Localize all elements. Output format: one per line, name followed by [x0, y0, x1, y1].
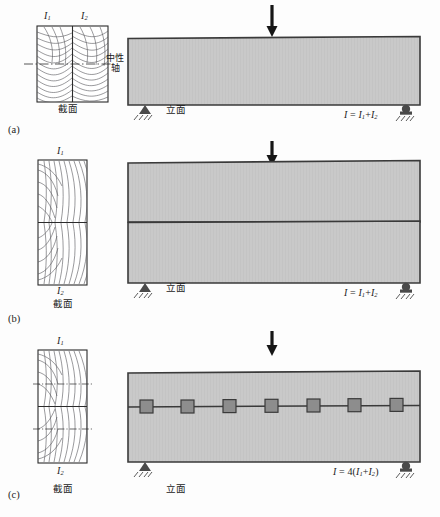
- connector-square: [390, 398, 403, 411]
- panel-c-elevation-beam: [128, 371, 420, 462]
- panel-a-section-caption: 截面: [58, 104, 78, 114]
- panel-c-label: (c): [8, 489, 20, 500]
- panel-a-roller-support: [396, 105, 414, 121]
- panel-b-formula: I = I1+I2: [344, 288, 378, 299]
- panel-c-pin-support: [134, 462, 152, 477]
- panel-c-roller-support: [396, 462, 414, 478]
- panel-b-inertia-label-top: I1: [57, 146, 64, 157]
- panel-c-load-arrow: [267, 331, 278, 356]
- connector-square: [181, 400, 194, 413]
- panel-a-inertia-label-2: I2: [81, 11, 88, 22]
- panel-b-elevation-beam: [128, 161, 420, 284]
- panel-b-section-caption: 截面: [53, 299, 73, 309]
- connector-square: [307, 399, 320, 412]
- connector-square: [140, 400, 153, 413]
- panel-a-formula: I = I1+I2: [344, 110, 378, 121]
- connector-square: [348, 399, 361, 412]
- panel-c-inertia-label-top: I1: [57, 336, 64, 347]
- panel-a-neutral-axis-label: 中性 轴: [106, 53, 124, 74]
- connector-square: [265, 399, 278, 412]
- panel-c-elevation-caption: 立面: [166, 484, 186, 494]
- panel-a-load-arrow: [267, 5, 278, 37]
- panel-c-section-caption: 截面: [53, 484, 73, 494]
- panel-a-cross-section: [24, 26, 112, 103]
- panel-c: [33, 331, 420, 478]
- panel-c-inertia-label-bottom: I2: [57, 466, 64, 477]
- panel-c-formula: I = 4(I1+I2): [333, 467, 379, 478]
- panel-c-cross-section: [33, 350, 92, 463]
- panel-a-elevation-beam: [128, 37, 420, 106]
- panel-b-pin-support: [134, 283, 152, 298]
- panel-a-elevation-caption: 立面: [166, 105, 186, 115]
- panel-b-elevation-caption: 立面: [166, 283, 186, 293]
- panel-a-label: (a): [8, 124, 20, 135]
- panel-a: [24, 5, 420, 121]
- panel-b-label: (b): [8, 313, 20, 324]
- panel-b-inertia-label-bottom: I2: [57, 286, 64, 297]
- connector-square: [223, 400, 236, 413]
- panel-b-roller-support: [396, 283, 414, 299]
- panel-a-inertia-label-1: I1: [44, 11, 51, 22]
- composite-beam-diagram: [0, 0, 440, 517]
- panel-b: [38, 141, 420, 299]
- figure-page: I1 I2 中性 轴 截面 立面 I = I1+I2 (a) I1 I2 截面 …: [0, 0, 440, 517]
- panel-a-pin-support: [134, 105, 152, 120]
- panel-b-cross-section: [38, 160, 91, 285]
